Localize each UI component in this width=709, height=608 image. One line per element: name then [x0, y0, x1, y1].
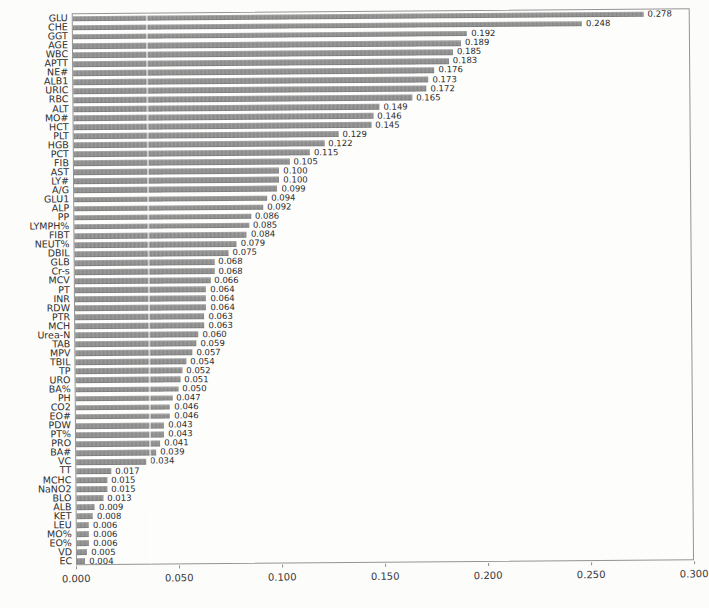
- bar-PDW: [76, 422, 164, 428]
- bar-BA%: [76, 386, 179, 393]
- x-tick-label: 0.250: [577, 569, 606, 580]
- bar-TT: [76, 468, 111, 474]
- bar-TP: [75, 368, 182, 375]
- bar-PT: [75, 286, 206, 293]
- bar-ALB: [77, 504, 96, 510]
- bar-GLB: [75, 259, 215, 266]
- x-tick-mark: [282, 565, 283, 568]
- x-tick-label: 0.200: [474, 570, 503, 581]
- x-tick-label: 0.300: [680, 568, 709, 579]
- bar-PP: [74, 213, 251, 220]
- bar-MCHC: [76, 477, 107, 483]
- chart-canvas: 0.2780.2480.1920.1890.1850.1830.1760.173…: [0, 0, 709, 608]
- bar-INR: [75, 295, 206, 302]
- value-label: 0.165: [416, 93, 440, 102]
- value-label: 0.278: [648, 10, 672, 19]
- bar-MPV: [75, 350, 192, 357]
- bar-PLT: [74, 131, 339, 139]
- bar-PH: [76, 395, 173, 402]
- plot-area: 0.2780.2480.1920.1890.1850.1830.1760.173…: [72, 8, 694, 565]
- x-tick-mark: [488, 563, 489, 566]
- value-label: 0.145: [375, 120, 399, 129]
- bar-NaNO2: [76, 486, 107, 492]
- bar-EO#: [76, 413, 170, 420]
- bar-LYMPH%: [74, 222, 249, 229]
- x-tick-mark: [591, 562, 592, 565]
- bar-ALP: [74, 204, 263, 211]
- y-axis-category-labels: GLUCHEGGTAGEWBCAPTTNE#ALB1URICRBCALTMO#H…: [0, 13, 72, 566]
- bar-PTR: [75, 313, 204, 320]
- bar-MO%: [77, 531, 89, 537]
- bar-BA#: [76, 449, 156, 455]
- bar-VD: [77, 549, 87, 555]
- bar-VC: [76, 459, 146, 465]
- bar-TAB: [75, 341, 196, 348]
- bar-TBIL: [75, 359, 186, 366]
- bar-BLO: [76, 495, 103, 501]
- x-tick-label: 0.100: [268, 571, 297, 582]
- feature-importance-bar-chart: 0.2780.2480.1920.1890.1850.1830.1760.173…: [0, 0, 709, 608]
- value-label: 0.034: [150, 457, 174, 466]
- x-tick-label: 0.150: [371, 571, 400, 582]
- bar-CO2: [76, 404, 170, 411]
- bar-A/G: [74, 186, 277, 193]
- bar-NEUT%: [75, 241, 237, 248]
- bar-EC: [77, 559, 85, 565]
- bar-EO%: [77, 540, 89, 546]
- x-tick-label: 0.000: [62, 573, 91, 584]
- bar-FIBT: [74, 232, 247, 239]
- bar-GLU1: [74, 195, 267, 202]
- bar-PT%: [76, 431, 164, 437]
- bar-HGB: [74, 140, 325, 148]
- x-tick-label: 0.050: [165, 572, 194, 583]
- x-tick-mark: [76, 566, 77, 569]
- bar-rows: 0.2780.2480.1920.1890.1850.1830.1760.173…: [73, 9, 693, 566]
- value-label: 0.248: [586, 19, 610, 28]
- bar-FIB: [74, 159, 290, 166]
- bar-MCH: [75, 322, 204, 329]
- bar-PCT: [74, 150, 310, 158]
- x-tick-mark: [179, 565, 180, 568]
- bar-RDW: [75, 304, 206, 311]
- x-axis: 0.0000.0500.1000.1500.2000.2500.300: [2, 560, 709, 596]
- bar-PRO: [76, 440, 160, 446]
- bar-LY#: [74, 177, 279, 184]
- bar-MCV: [75, 277, 211, 284]
- x-tick-mark: [385, 564, 386, 567]
- bar-LEU: [77, 522, 89, 528]
- x-tick-mark: [694, 561, 695, 564]
- bar-DBIL: [75, 250, 229, 257]
- bar-URO: [76, 377, 181, 384]
- bar-AST: [74, 168, 279, 175]
- bar-KET: [77, 513, 93, 519]
- bar-Cr-s: [75, 268, 215, 275]
- bar-Urea-N: [75, 331, 198, 338]
